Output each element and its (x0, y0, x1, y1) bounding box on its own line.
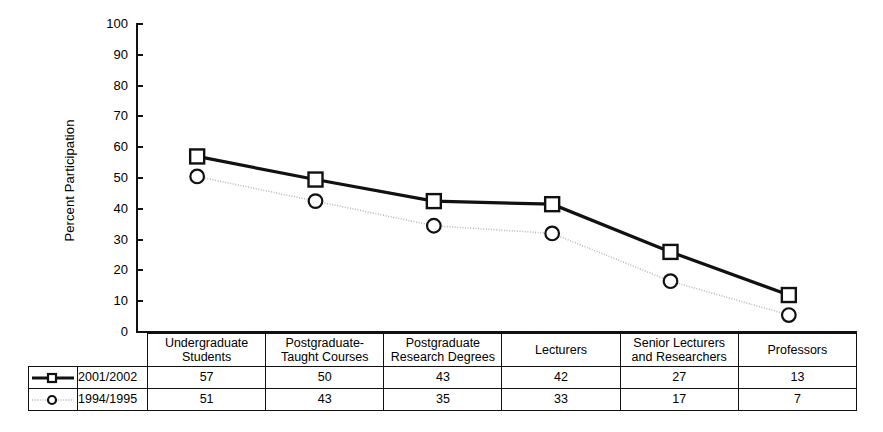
legend-label: 1994/1995 (78, 389, 148, 411)
legend-swatch-cell (29, 389, 78, 411)
chart-figure: Percent Participation 100908070605040302… (0, 0, 883, 432)
table-column-header: Professors (738, 334, 856, 367)
header-line-2: and Researchers (621, 350, 738, 364)
table-cell: 57 (148, 367, 266, 389)
table-cell: 35 (384, 389, 502, 411)
header-line-1: Professors (739, 343, 856, 357)
header-line-1: Postgraduate- (266, 336, 383, 350)
header-line-1: Lecturers (502, 343, 619, 357)
data-point-marker (427, 194, 441, 208)
header-line-1: Undergraduate (148, 336, 265, 350)
table-cell: 27 (620, 367, 738, 389)
header-line-1: Senior Lecturers (621, 336, 738, 350)
table-row: 575043422713 (148, 367, 857, 389)
legend-item: 2001/2002 (29, 367, 148, 389)
header-line-2: Taught Courses (266, 350, 383, 364)
table-cell: 43 (266, 389, 384, 411)
data-point-marker (545, 227, 559, 241)
series-line-2001-2002 (197, 156, 789, 295)
table-column-header: Lecturers (502, 334, 620, 367)
table-column-header: UndergraduateStudents (148, 334, 266, 367)
table-cell: 50 (266, 367, 384, 389)
table-column-header: Postgraduate-Taught Courses (266, 334, 384, 367)
data-table: UndergraduateStudentsPostgraduate-Taught… (147, 333, 857, 411)
legend-item: 1994/1995 (29, 389, 148, 411)
legend-swatch-cell (29, 367, 78, 389)
chart-legend: 2001/20021994/1995 (28, 366, 148, 411)
table-cell: 43 (384, 367, 502, 389)
table-cell: 17 (620, 389, 738, 411)
table-cell: 33 (502, 389, 620, 411)
header-line-1: Postgraduate (384, 336, 501, 350)
data-point-marker (664, 245, 678, 259)
data-point-marker (427, 219, 441, 233)
table-column-header: PostgraduateResearch Degrees (384, 334, 502, 367)
legend-circle-marker-icon (31, 392, 75, 408)
table-cell: 51 (148, 389, 266, 411)
legend-label: 2001/2002 (78, 367, 148, 389)
legend-square-marker-icon (31, 370, 75, 386)
header-line-2: Students (148, 350, 265, 364)
table-cell: 42 (502, 367, 620, 389)
table-row: 51433533177 (148, 389, 857, 411)
series-line-1994-1995 (197, 176, 789, 315)
data-point-marker (782, 288, 796, 302)
data-point-marker (190, 170, 204, 184)
data-point-marker (664, 274, 678, 288)
data-point-marker (782, 308, 796, 322)
table-cell: 13 (738, 367, 856, 389)
data-point-marker (309, 173, 323, 187)
header-line-2: Research Degrees (384, 350, 501, 364)
data-point-marker (190, 149, 204, 163)
table-column-header: Senior Lecturersand Researchers (620, 334, 738, 367)
data-point-marker (309, 194, 323, 208)
table-header-row: UndergraduateStudentsPostgraduate-Taught… (148, 334, 857, 367)
table-cell: 7 (738, 389, 856, 411)
data-point-marker (545, 197, 559, 211)
